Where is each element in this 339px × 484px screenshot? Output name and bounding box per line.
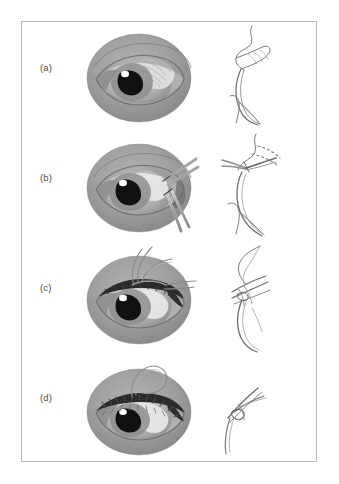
forceps-section-b bbox=[222, 158, 276, 172]
eyelid-cross-section-b bbox=[208, 132, 302, 242]
lower-lid-inner-a bbox=[242, 106, 260, 124]
corneal-highlight-a bbox=[121, 71, 129, 77]
upper-lid-contour-b bbox=[238, 134, 256, 170]
panel-label-d: (d) bbox=[40, 392, 52, 403]
panel-c: (c) bbox=[22, 242, 316, 352]
upper-lid-contour-a bbox=[236, 26, 252, 70]
figure-root: (a) bbox=[0, 0, 339, 484]
panel-b: (b) bbox=[22, 132, 316, 242]
panel-a: (a) bbox=[22, 22, 316, 132]
eyelid-cross-section-d bbox=[208, 352, 302, 462]
panel-d: (d) bbox=[22, 352, 316, 462]
globe-curve-inner-c bbox=[243, 302, 259, 350]
globe-curve-c bbox=[238, 300, 257, 352]
corneal-highlight-c bbox=[119, 295, 127, 301]
lower-lid-inner-b bbox=[242, 215, 264, 235]
upper-lid-inner-c bbox=[243, 246, 260, 284]
eye-front-view-b bbox=[80, 135, 198, 241]
eyelid-cross-section-a bbox=[208, 22, 302, 132]
eye-front-view-c bbox=[80, 245, 198, 351]
lower-lid-fold-c bbox=[252, 308, 262, 332]
tarsal-plate-a bbox=[236, 46, 270, 69]
eye-front-view-d bbox=[80, 355, 198, 461]
lid-contour-inner-d bbox=[229, 418, 234, 452]
eye-front-view-a bbox=[80, 25, 198, 131]
globe-curve-b bbox=[237, 172, 262, 236]
globe-curve-a bbox=[236, 69, 258, 125]
planned-incision-dotted-b bbox=[252, 146, 280, 166]
scissors-pivot-b bbox=[172, 202, 175, 205]
lower-lid-contour-a bbox=[230, 95, 239, 123]
globe-curve-inner-b bbox=[242, 174, 263, 234]
lower-lid-contour-b bbox=[228, 203, 239, 234]
corneal-highlight-b bbox=[119, 180, 127, 186]
panel-label-b: (b) bbox=[40, 172, 52, 183]
suture-loops-c bbox=[232, 276, 270, 306]
eyelid-cross-section-c bbox=[208, 242, 302, 352]
panel-label-c: (c) bbox=[40, 282, 52, 293]
panel-label-a: (a) bbox=[40, 62, 52, 73]
figure-border-frame: (a) bbox=[21, 21, 317, 462]
